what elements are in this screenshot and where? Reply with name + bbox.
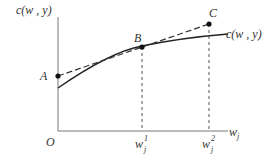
point-b <box>139 44 144 49</box>
tick-w1-sup: 1 <box>144 134 148 143</box>
point-c <box>206 21 211 26</box>
tick-label-w1: w <box>135 137 143 151</box>
point-a-label: A <box>39 69 48 83</box>
point-b-label: B <box>134 31 142 45</box>
tick-w2-base: w <box>202 137 210 151</box>
tick-w1-base: w <box>135 137 143 151</box>
tick-w2-sub: j <box>210 145 214 154</box>
point-a <box>55 73 60 78</box>
cost-function-diagram: c(w , y) A B C c(w , y) O wj w 1 j w 2 j <box>0 0 274 167</box>
x-axis-label-base: w <box>229 125 237 139</box>
cost-curve <box>58 34 228 88</box>
point-c-label: C <box>209 6 218 20</box>
tick-w1-sub: j <box>143 145 147 154</box>
origin-label: O <box>46 135 55 149</box>
tick-label-w2: w <box>202 137 210 151</box>
x-axis-label-sub: j <box>236 132 240 141</box>
x-axis-label: wj <box>229 125 240 141</box>
tick-w2-sup: 2 <box>211 134 215 143</box>
y-axis-label: c(w , y) <box>16 3 52 17</box>
curve-label: c(w , y) <box>226 27 262 41</box>
